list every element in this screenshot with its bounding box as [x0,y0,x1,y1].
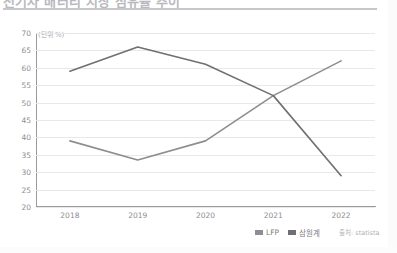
plot-area: 7065605550454035302520 [36,33,375,207]
chart-legend: LFP 삼원계 [255,227,320,238]
y-axis-tick-label: 30 [21,168,31,177]
legend-swatch-icon [288,230,296,235]
page-title: 전기차 배터리 시장 점유율 추이 [3,0,181,8]
legend-label-ternary: 삼원계 [299,227,320,238]
legend-item-ternary: 삼원계 [288,227,320,238]
source-note: 출처: statista [339,227,379,237]
legend-swatch-icon [255,230,263,235]
y-axis-tick-label: 20 [21,203,31,212]
y-axis-tick-label: 45 [21,116,31,125]
legend-item-lfp: LFP [255,228,279,237]
y-axis-tick-label: 55 [21,81,31,90]
line-series-group [36,33,375,207]
chart-page: 전기차 배터리 시장 점유율 추이 (단위 %) 706560555045403… [0,0,397,253]
x-axis-tick-label: 2021 [264,211,283,220]
legend-label-lfp: LFP [266,228,279,237]
line-series-ternary [70,47,341,176]
y-axis-tick-label: 65 [21,46,31,55]
y-axis-tick-label: 40 [21,133,31,142]
title-divider [3,8,377,10]
y-axis-tick-label: 25 [21,185,31,194]
x-axis-tick-label: 2019 [128,211,147,220]
y-axis-tick-label: 35 [21,150,31,159]
x-axis-tick-label: 2018 [60,211,79,220]
y-axis-tick-label: 70 [21,29,31,38]
page-title-clipped: 전기차 배터리 시장 점유율 추이 [0,0,397,8]
x-axis-tick-label: 2022 [332,211,351,220]
line-series-lfp [70,61,341,160]
page-edge-bottom [0,247,397,253]
y-axis-tick-label: 50 [21,98,31,107]
page-edge-right [388,0,397,253]
x-axis-tick-label: 2020 [196,211,215,220]
y-axis-tick-label: 60 [21,63,31,72]
gridline [36,207,375,208]
